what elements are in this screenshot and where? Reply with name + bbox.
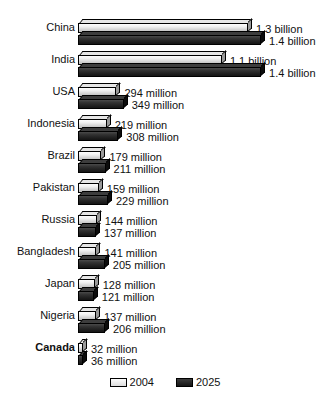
bar-side-face — [96, 222, 100, 235]
bar-2025-indonesia — [78, 131, 118, 141]
bar-2025-usa — [78, 99, 124, 109]
chart-legend: 2004 2025 — [0, 374, 330, 390]
chart-row: Nigeria137 million206 million — [0, 306, 330, 338]
bar-front-face — [78, 291, 94, 301]
category-label: Pakistan — [0, 181, 75, 193]
category-label: Brazil — [0, 149, 75, 161]
bar-side-face — [105, 318, 109, 331]
bar-front-face — [78, 227, 96, 237]
bar-side-face — [96, 306, 100, 319]
value-label: 206 million — [113, 324, 166, 335]
value-label: 137 million — [104, 228, 157, 239]
value-label: 211 million — [114, 164, 166, 175]
bar-side-face — [101, 146, 105, 159]
legend-swatch-2004 — [110, 378, 127, 387]
bar-side-face — [105, 254, 109, 267]
bar-front-face — [78, 35, 261, 45]
bar-side-face — [96, 242, 100, 255]
value-label: 144 million — [105, 216, 158, 227]
value-label: 128 million — [103, 280, 156, 291]
bar-front-face — [78, 195, 108, 205]
value-label: 1.4 billion — [269, 36, 315, 47]
value-label: 121 million — [102, 292, 155, 303]
bar-side-face — [108, 190, 112, 203]
value-label: 179 million — [109, 152, 162, 163]
value-label: 349 million — [132, 100, 185, 111]
bar-2025-bangladesh — [78, 259, 105, 269]
bar-2025-pakistan — [78, 195, 108, 205]
bar-2025-canada — [78, 355, 83, 365]
bar-2025-china — [78, 35, 261, 45]
category-label: Canada — [0, 341, 75, 353]
bar-front-face — [78, 323, 105, 333]
category-label: USA — [0, 85, 75, 97]
bar-2025-india — [78, 67, 261, 77]
category-label: Russia — [0, 213, 75, 225]
legend-label-2025: 2025 — [196, 377, 220, 388]
bar-side-face — [248, 18, 252, 31]
legend-item-2004: 2004 — [110, 377, 154, 388]
bar-side-face — [99, 178, 103, 191]
bar-side-face — [107, 114, 111, 127]
value-label: 219 million — [115, 120, 168, 131]
bar-side-face — [83, 350, 87, 363]
category-label: China — [0, 21, 75, 33]
chart-row: Bangladesh141 million205 million — [0, 242, 330, 274]
value-label: 159 million — [107, 184, 160, 195]
chart-row: Russia144 million137 million — [0, 210, 330, 242]
chart-row: Pakistan159 million229 million — [0, 178, 330, 210]
legend-swatch-2025 — [176, 378, 193, 387]
category-label: Bangladesh — [0, 245, 75, 257]
population-bar-chart: China1.3 billion1.4 billionIndia1.1 bill… — [0, 0, 330, 402]
bar-side-face — [118, 126, 122, 139]
legend-label-2004: 2004 — [130, 377, 154, 388]
bar-front-face — [78, 259, 105, 269]
value-label: 137 million — [104, 312, 157, 323]
bar-side-face — [106, 158, 110, 171]
value-label: 1.4 billion — [269, 68, 315, 79]
bar-2025-russia — [78, 227, 96, 237]
chart-row: Japan128 million121 million — [0, 274, 330, 306]
bar-side-face — [222, 50, 226, 63]
bar-front-face — [78, 355, 83, 365]
value-label: 308 million — [126, 132, 179, 143]
legend-item-2025: 2025 — [176, 377, 220, 388]
bar-side-face — [124, 94, 128, 107]
bar-side-face — [261, 30, 265, 43]
category-label: Nigeria — [0, 309, 75, 321]
value-label: 229 million — [116, 196, 169, 207]
chart-row: India1.1 billion1.4 billion — [0, 50, 330, 82]
value-label: 205 million — [113, 260, 166, 271]
bar-side-face — [94, 286, 98, 299]
bar-front-face — [78, 131, 118, 141]
category-label: Japan — [0, 277, 75, 289]
value-label: 141 million — [104, 248, 157, 259]
chart-row: China1.3 billion1.4 billion — [0, 18, 330, 50]
value-label: 294 million — [124, 88, 177, 99]
bar-2025-nigeria — [78, 323, 105, 333]
bar-front-face — [78, 163, 106, 173]
category-label: India — [0, 53, 75, 65]
bar-front-face — [78, 67, 261, 77]
bar-2025-japan — [78, 291, 94, 301]
chart-row: Indonesia219 million308 million — [0, 114, 330, 146]
chart-row: Brazil179 million211 million — [0, 146, 330, 178]
bar-side-face — [116, 82, 120, 95]
category-label: Indonesia — [0, 117, 75, 129]
value-label: 32 million — [91, 344, 137, 355]
chart-row: Canada32 million36 million — [0, 338, 330, 370]
value-label: 36 million — [91, 356, 137, 367]
bar-front-face — [78, 99, 124, 109]
bar-side-face — [261, 62, 265, 75]
chart-row: USA294 million349 million — [0, 82, 330, 114]
bar-2025-brazil — [78, 163, 106, 173]
